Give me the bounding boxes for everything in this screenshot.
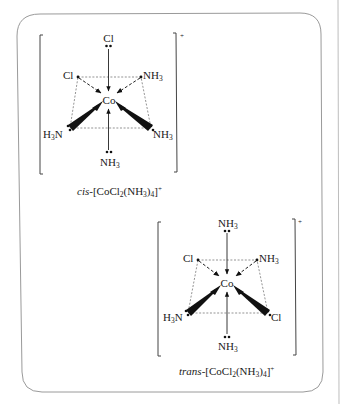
page-edge-line xyxy=(338,0,339,404)
trans-charge: + xyxy=(298,218,302,226)
cis-central-atom: Co xyxy=(103,94,116,106)
trans-ligand-upper-left: Cl xyxy=(183,252,193,264)
trans-isomer: + NH3 Co Cl NH3 H3N Cl NH3 trans-[CoCl2(… xyxy=(158,217,302,379)
trans-ligand-lower-left: H3N xyxy=(163,311,183,325)
cis-charge: + xyxy=(180,32,184,40)
trans-ligand-bottom: NH3 xyxy=(218,340,238,354)
cis-bond-upper-right xyxy=(117,78,140,93)
cis-right-bracket xyxy=(173,33,177,172)
cis-isomer: + Cl Co Cl NH3 H3N NH3 NH3 cis-[CoCl2(NH… xyxy=(40,32,184,199)
trans-central-atom: Co xyxy=(221,277,234,289)
trans-ligand-upper-right: NH3 xyxy=(259,252,279,266)
cis-ligand-lower-left: H3N xyxy=(43,128,63,142)
trans-bond-upper-left xyxy=(199,261,219,276)
cis-ligand-upper-right: NH3 xyxy=(143,69,163,83)
trans-caption: trans-[CoCl2(NH3)4]+ xyxy=(179,365,274,379)
trans-bond-upper-right xyxy=(236,261,256,276)
trans-right-bracket xyxy=(292,219,296,355)
trans-ligand-lower-right: Cl xyxy=(271,311,281,323)
octahedral-isomers-figure: + Cl Co Cl NH3 H3N NH3 NH3 cis-[CoCl2(NH… xyxy=(0,0,341,404)
cis-ligand-bottom: NH3 xyxy=(100,156,120,170)
cis-caption: cis-[CoCl2(NH3)4]+ xyxy=(77,185,162,199)
cis-left-bracket xyxy=(40,35,43,174)
cis-ligand-upper-left: Cl xyxy=(63,69,73,81)
cis-bond-upper-left xyxy=(79,78,101,93)
trans-ligand-top: NH3 xyxy=(218,217,238,231)
cis-ligand-top: Cl xyxy=(103,32,113,44)
trans-left-bracket xyxy=(158,222,161,356)
cis-ligand-lower-right: NH3 xyxy=(153,128,173,142)
